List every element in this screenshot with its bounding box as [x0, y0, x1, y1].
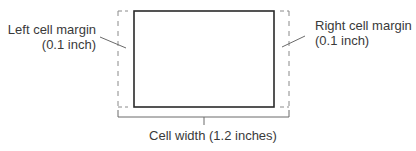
left-margin-leader-line — [100, 37, 126, 48]
right-margin-boundary — [280, 11, 289, 107]
cell-content-box — [134, 11, 274, 107]
left-margin-boundary — [118, 11, 128, 107]
right-margin-leader-line — [282, 36, 305, 47]
cell-width-bracket — [118, 110, 289, 125]
cell-margin-diagram: Left cell margin (0.1 inch) Right cell m… — [0, 0, 416, 151]
left-margin-label-line2: (0.1 inch) — [42, 37, 96, 52]
cell-width-label: Cell width (1.2 inches) — [149, 128, 277, 143]
right-margin-label-line1: Right cell margin — [315, 18, 412, 33]
right-margin-label-line2: (0.1 inch) — [315, 33, 369, 48]
left-margin-label-line1: Left cell margin — [8, 22, 96, 37]
